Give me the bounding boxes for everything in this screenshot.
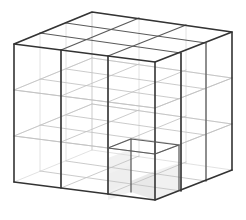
slab1-b2: [108, 70, 186, 102]
slab1-b0: [14, 58, 92, 90]
wireframe-canvas: [0, 0, 246, 220]
top-grid-b2: [108, 25, 186, 56]
top-face-outline: [14, 12, 232, 62]
slab2-b0: [14, 104, 92, 136]
interior-slab-1: [14, 58, 232, 108]
hidden-grid-h-bl-3: [14, 150, 92, 182]
top-face-border: [14, 12, 232, 62]
interior-verticals: [61, 43, 206, 194]
cube-wireframe-svg: [0, 0, 246, 220]
inner-cell-top-outline: [108, 139, 179, 154]
shaded-inner-faces: [108, 149, 179, 200]
fr-h-1: [155, 78, 232, 108]
front-left-face-grid: [14, 90, 155, 154]
interior-slab-2: [14, 104, 232, 154]
inner-cell-right-panel: [155, 163, 179, 200]
